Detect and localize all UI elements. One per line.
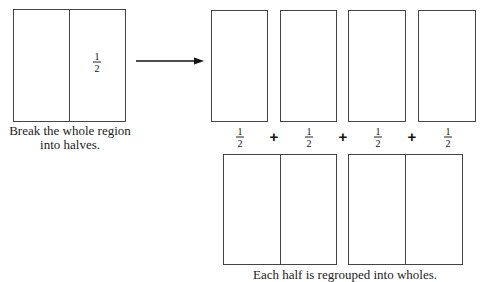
caption-line-1: Break the whole region [0, 124, 140, 138]
whole-region-half-fraction: 1 2 [93, 52, 101, 73]
half-divider [69, 10, 70, 121]
whole-region-box [13, 9, 126, 122]
half-box-2 [280, 10, 337, 122]
plus-sign-2: + [339, 128, 348, 145]
caption-line-2: into halves. [0, 138, 140, 152]
plus-sign-1: + [270, 128, 279, 145]
half-fraction-1: 1 2 [236, 127, 244, 148]
half-fraction-3: 1 2 [374, 127, 382, 148]
whole-region-caption: Break the whole region into halves. [0, 124, 140, 152]
regroup-caption: Each half is regrouped into wholes. [215, 268, 475, 282]
half-divider [280, 155, 281, 264]
half-divider [405, 155, 406, 264]
regrouped-whole-1 [223, 154, 337, 265]
half-fraction-4: 1 2 [444, 127, 452, 148]
half-box-1 [211, 10, 268, 122]
half-fraction-2: 1 2 [305, 127, 313, 148]
right-arrow-icon [134, 56, 206, 66]
half-box-3 [348, 10, 406, 122]
regrouped-whole-2 [348, 154, 463, 265]
half-box-4 [418, 10, 476, 122]
plus-sign-3: + [408, 128, 417, 145]
